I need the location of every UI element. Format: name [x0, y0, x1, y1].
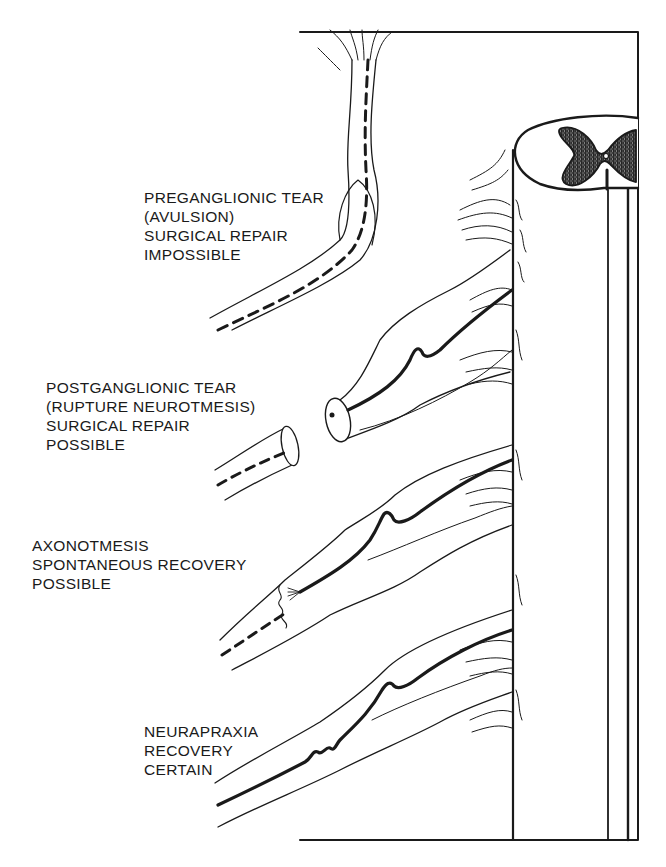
nerve-root-postganglionic	[215, 250, 512, 500]
label-line: SURGICAL REPAIR	[144, 226, 324, 245]
label-line: (AVULSION)	[144, 207, 324, 226]
label-line: NEURAPRAXIA	[144, 722, 258, 741]
label-line: POSSIBLE	[46, 435, 256, 454]
label-line: AXONOTMESIS	[32, 536, 247, 555]
label-neurapraxia: NEURAPRAXIA RECOVERY CERTAIN	[144, 722, 258, 779]
label-line: RECOVERY	[144, 741, 258, 760]
label-line: POSSIBLE	[32, 574, 247, 593]
cord-rootlets	[516, 200, 526, 720]
label-line: CERTAIN	[144, 760, 258, 779]
label-line: PREGANGLIONIC TEAR	[144, 188, 324, 207]
label-line: SURGICAL REPAIR	[46, 416, 256, 435]
label-line: POSTGANGLIONIC TEAR	[46, 378, 256, 397]
nerve-root-neurapraxia	[215, 610, 512, 827]
nerve-root-preganglionic	[210, 30, 512, 330]
label-axonotmesis: AXONOTMESIS SPONTANEOUS RECOVERY POSSIBL…	[32, 536, 247, 593]
label-line: SPONTANEOUS RECOVERY	[32, 555, 247, 574]
label-postganglionic: POSTGANGLIONIC TEAR (RUPTURE NEUROTMESIS…	[46, 378, 256, 454]
spinal-cord-cylinder	[513, 120, 628, 840]
nerve-injury-diagram: PREGANGLIONIC TEAR (AVULSION) SURGICAL R…	[0, 0, 666, 867]
spinal-cord-cross-section	[515, 116, 638, 190]
label-line: IMPOSSIBLE	[144, 245, 324, 264]
label-line: (RUPTURE NEUROTMESIS)	[46, 397, 256, 416]
label-preganglionic: PREGANGLIONIC TEAR (AVULSION) SURGICAL R…	[144, 188, 324, 264]
